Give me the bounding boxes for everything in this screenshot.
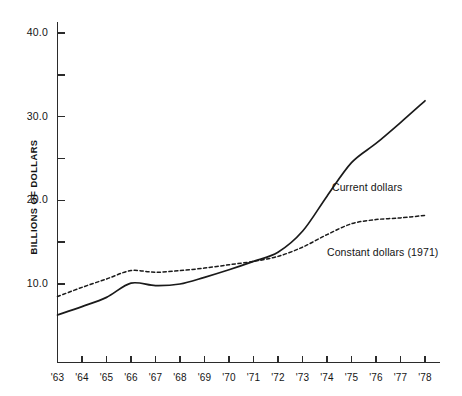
series-annotation-current-dollars: Current dollars [332, 181, 402, 193]
chart-figure: 40.030.020.010.0 '63'64'65'66'67'68'69'7… [0, 0, 462, 396]
x-axis-tick-label: '78 [405, 372, 445, 383]
chart-series-group [58, 101, 426, 315]
y-axis-tick-label: 10.0 [4, 277, 48, 289]
y-axis-title: BILLIONS OF DOLLARS [29, 117, 39, 277]
chart-plot-area [0, 0, 462, 396]
y-axis-tick-label: 40.0 [4, 26, 48, 38]
series-line-current-dollars [58, 101, 426, 315]
y-axis-tick-label: 30.0 [4, 110, 48, 122]
y-axis-ticks [58, 33, 65, 284]
series-annotation-constant-dollars: Constant dollars (1971) [327, 246, 438, 258]
x-axis-ticks [58, 356, 426, 363]
y-axis-tick-label: 20.0 [4, 193, 48, 205]
